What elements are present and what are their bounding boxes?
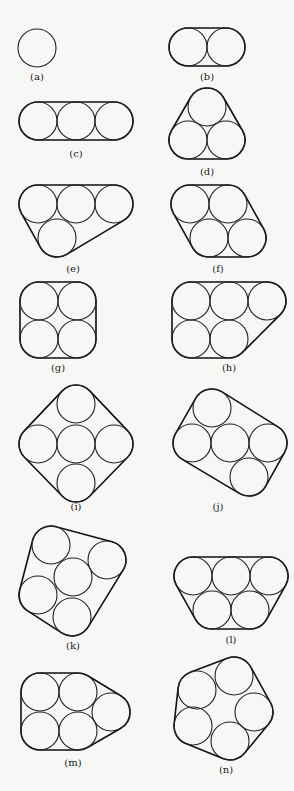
panel-label: (j) (213, 501, 224, 512)
packed-circle (174, 557, 212, 595)
panel-j: (j) (173, 389, 287, 512)
packed-circle (228, 219, 266, 257)
packed-circle (215, 657, 253, 695)
panel-label: (h) (222, 362, 236, 373)
packed-circle (21, 673, 59, 711)
panel-label: (m) (64, 757, 81, 768)
panel-label: (n) (219, 764, 233, 775)
packed-circle (20, 282, 58, 320)
enclosing-band (19, 102, 133, 140)
packed-circle (230, 458, 268, 496)
enclosing-band (169, 88, 245, 159)
packed-circle (38, 219, 76, 257)
panel-n: (n) (174, 657, 273, 775)
panel-label: (g) (51, 362, 65, 373)
packed-circle (207, 121, 245, 159)
packed-circle (20, 320, 58, 358)
packed-circle (57, 385, 95, 423)
packed-circle (169, 28, 207, 66)
packed-circle (59, 712, 97, 750)
panel-h: (h) (172, 282, 286, 373)
packed-circle (95, 185, 133, 223)
packed-circle (172, 320, 210, 358)
packed-circle (57, 185, 95, 223)
enclosing-band (174, 557, 288, 629)
packed-circle (57, 425, 95, 463)
panel-label: (i) (70, 501, 81, 512)
panel-i: (i) (19, 385, 133, 512)
panel-label: (e) (66, 263, 80, 274)
panel-label: (k) (66, 640, 80, 651)
packed-circle (53, 598, 91, 636)
panel-d: (d) (169, 88, 245, 177)
packed-circle (95, 425, 133, 463)
panel-label: (c) (69, 148, 83, 159)
packed-circle (212, 557, 250, 595)
packed-circle (169, 121, 207, 159)
packed-circle (174, 707, 212, 745)
circle-packing-diagram: (a)(b)(c)(d)(e)(f)(g)(h)(i)(j)(k)(l)(m)(… (0, 0, 294, 791)
packed-circle (209, 185, 247, 223)
panel-f: (f) (171, 185, 266, 274)
packed-circle (57, 464, 95, 502)
packed-circle (58, 320, 96, 358)
packed-circle (18, 29, 56, 67)
enclosing-band (20, 282, 96, 358)
packed-circle (19, 102, 57, 140)
packed-circle (19, 576, 57, 614)
packed-circle (21, 712, 59, 750)
packed-circle (19, 425, 57, 463)
enclosing-band (19, 385, 133, 502)
packed-circle (173, 424, 211, 462)
packed-circle (92, 693, 130, 731)
panel-a: (a) (18, 29, 56, 82)
packed-circle (193, 591, 231, 629)
panel-l: (l) (174, 557, 288, 645)
packed-circle (231, 591, 269, 629)
panel-label: (b) (200, 71, 214, 82)
packed-circle (188, 88, 226, 126)
panel-label: (f) (212, 263, 224, 274)
packed-circle (250, 557, 288, 595)
enclosing-band (21, 673, 130, 750)
packed-circle (178, 671, 216, 709)
packed-circle (59, 673, 97, 711)
packed-circle (172, 282, 210, 320)
enclosing-band (19, 526, 126, 636)
panel-label: (l) (225, 634, 236, 645)
packed-circle (193, 389, 231, 427)
packed-circle (54, 558, 92, 596)
packed-circle (210, 282, 248, 320)
panel-k: (k) (19, 526, 126, 651)
packed-circle (171, 185, 209, 223)
packed-circle (211, 424, 249, 462)
packed-circle (88, 541, 126, 579)
packed-circle (249, 424, 287, 462)
packed-circle (190, 219, 228, 257)
panel-m: (m) (21, 673, 130, 768)
packed-circle (95, 102, 133, 140)
packed-circle (211, 722, 249, 760)
packed-circle (210, 320, 248, 358)
enclosing-band (19, 185, 133, 257)
packed-circle (58, 282, 96, 320)
panel-label: (d) (200, 166, 214, 177)
packed-circle (57, 102, 95, 140)
panel-g: (g) (20, 282, 96, 373)
packed-circle (248, 282, 286, 320)
packed-circle (207, 28, 245, 66)
packed-circle (19, 185, 57, 223)
panel-c: (c) (19, 102, 133, 159)
panel-b: (b) (169, 28, 245, 82)
panel-label: (a) (30, 71, 44, 82)
packed-circle (32, 526, 70, 564)
panel-e: (e) (19, 185, 133, 274)
